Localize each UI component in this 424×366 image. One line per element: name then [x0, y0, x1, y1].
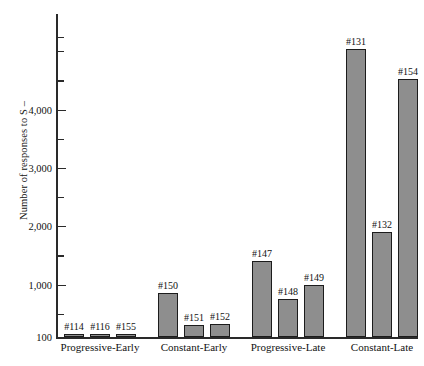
y-axis-line [56, 14, 58, 338]
bar-value-label: #151 [184, 312, 204, 323]
y-tick-minor [57, 139, 64, 140]
bar [116, 334, 136, 337]
bar-value-label: #154 [398, 66, 418, 77]
x-group-label: Constant-Late [351, 341, 413, 353]
bar [398, 79, 418, 337]
y-axis-title: Number of responses to S – [18, 66, 29, 256]
bar-value-label: #131 [346, 36, 366, 47]
x-group-label: Progressive-Late [251, 341, 326, 353]
y-tick-major [57, 285, 66, 286]
y-tick-major [57, 226, 66, 227]
bar [210, 324, 230, 337]
y-tick-minor [57, 80, 64, 81]
bar-value-label: #150 [158, 280, 178, 291]
bar [252, 261, 272, 337]
y-tick-major [57, 337, 66, 338]
y-tick-minor [57, 37, 64, 38]
x-group-label: Progressive-Early [61, 341, 140, 353]
bar [304, 285, 324, 337]
bar-value-label: #148 [278, 286, 298, 297]
y-tick-minor [57, 197, 64, 198]
y-tick-major [57, 110, 66, 111]
y-tick-minor [57, 314, 64, 315]
bar-value-label: #149 [304, 272, 324, 283]
bar-value-label: #116 [90, 321, 110, 332]
bar-value-label: #152 [210, 311, 230, 322]
bar-value-label: #114 [64, 321, 84, 332]
y-tick-label: 3,000 [28, 162, 52, 173]
bar-value-label: #155 [116, 321, 136, 332]
y-tick-major [57, 168, 66, 169]
y-tick-label: 4,000 [28, 104, 52, 115]
bar-chart: Number of responses to S – 1001,0002,000… [0, 0, 424, 366]
bar [346, 49, 366, 337]
y-tick-minor [57, 51, 64, 52]
bar [278, 299, 298, 337]
x-axis-line [56, 337, 418, 339]
y-tick-label: 100 [36, 332, 52, 343]
bar [158, 293, 178, 337]
x-group-label: Constant-Early [161, 341, 228, 353]
bar [372, 232, 392, 337]
bar [90, 334, 110, 337]
plot-area: 1001,0002,0003,0004,000 #114#116#155#150… [56, 14, 418, 338]
bar [184, 325, 204, 337]
bar-value-label: #132 [372, 219, 392, 230]
bar [64, 334, 84, 337]
y-tick-label: 1,000 [28, 279, 52, 290]
bar-value-label: #147 [252, 248, 272, 259]
y-tick-minor [57, 255, 64, 256]
y-tick-label: 2,000 [28, 221, 52, 232]
